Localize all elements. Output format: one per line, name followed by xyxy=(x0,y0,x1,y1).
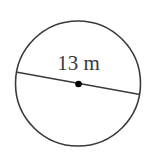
center-point xyxy=(75,81,82,88)
circle-diagram: 13 m xyxy=(0,0,153,154)
diameter-label: 13 m xyxy=(57,51,100,75)
